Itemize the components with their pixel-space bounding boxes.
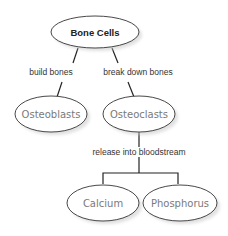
node-label: Bone Cells [70,27,119,38]
node-label: Osteoblasts [22,109,81,120]
node-osteoblasts: Osteoblasts [15,96,90,135]
edge-label-build-bones: build bones [29,67,72,77]
node-calcium: Calcium [67,185,142,224]
edge-branch-bar [103,173,178,184]
concept-map: build bones break down bones release int… [0,0,228,236]
node-bone-cells: Bone Cells [51,16,142,51]
node-label: Phosphorus [151,198,209,209]
edge-bonecells-osteoblasts-lower [57,82,62,97]
node-osteoclasts: Osteoclasts [103,96,178,135]
edge-label-release-into-bloodstream: release into bloodstream [92,147,185,157]
edge-bonecells-osteoclasts-upper [112,48,118,63]
edge-bonecells-osteoclasts-lower [128,82,134,97]
node-label: Osteoclasts [110,109,168,120]
node-phosphorus: Phosphorus [143,185,220,224]
edge-bonecells-osteoblasts-upper [73,48,78,63]
node-label: Calcium [83,198,123,209]
edge-label-break-down-bones: break down bones [103,67,172,77]
